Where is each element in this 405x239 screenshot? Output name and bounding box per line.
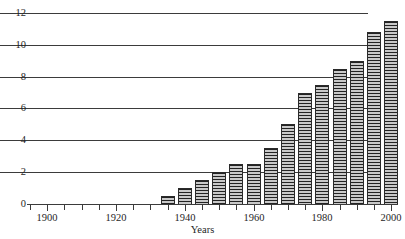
x-tick-major-1920	[116, 205, 117, 211]
bar-1985	[333, 69, 347, 204]
x-tick-major-2000	[391, 205, 392, 211]
x-tick-minor-1955	[236, 205, 237, 210]
bar-1965	[264, 148, 278, 204]
y-tick-mark-2	[27, 172, 30, 173]
x-tick-major-1960	[254, 205, 255, 211]
y-tick-label-0: 0	[0, 199, 26, 209]
x-tick-label-1940: 1940	[165, 212, 205, 223]
x-tick-minor-1905	[64, 205, 65, 210]
y-tick-label-10: 10	[0, 40, 26, 50]
x-tick-label-2000: 2000	[371, 212, 405, 223]
y-tick-mark-8	[27, 77, 30, 78]
gridline-4	[0, 140, 368, 141]
x-axis-line	[30, 204, 398, 205]
bar-1955	[229, 164, 243, 204]
gridline-10	[0, 45, 368, 46]
gridline-6	[0, 108, 368, 109]
bar-1975	[298, 93, 312, 204]
x-tick-minor-1930	[150, 205, 151, 210]
bar-1970	[281, 124, 295, 204]
x-tick-minor-1975	[305, 205, 306, 210]
y-tick-mark-10	[27, 45, 30, 46]
y-tick-mark-4	[27, 140, 30, 141]
x-tick-label-1980: 1980	[302, 212, 342, 223]
x-tick-minor-1990	[357, 205, 358, 210]
y-tick-label-2: 2	[0, 167, 26, 177]
x-tick-minor-1995	[374, 205, 375, 210]
x-tick-minor-1910	[82, 205, 83, 210]
x-tick-major-1980	[322, 205, 323, 211]
x-tick-major-1940	[185, 205, 186, 211]
x-tick-minor-1915	[99, 205, 100, 210]
x-tick-minor-1895	[30, 205, 31, 210]
x-tick-label-1960: 1960	[234, 212, 274, 223]
bar-1995	[367, 32, 381, 204]
x-tick-minor-1945	[202, 205, 203, 210]
bar-2000	[384, 21, 398, 204]
bar-1990	[350, 61, 364, 204]
x-axis-title: Years	[0, 224, 405, 235]
x-tick-minor-1935	[168, 205, 169, 210]
bar-1940	[178, 188, 192, 204]
x-tick-major-1900	[47, 205, 48, 211]
bar-1935	[161, 196, 175, 204]
bar-chart: 12 10 8 6 4 2 0 190019201940196019802000…	[0, 0, 405, 239]
x-tick-minor-1965	[271, 205, 272, 210]
y-tick-label-6: 6	[0, 103, 26, 113]
y-tick-label-12: 12	[0, 8, 26, 18]
gridline-2	[0, 172, 368, 173]
bar-1980	[315, 85, 329, 204]
gridline-12	[0, 13, 368, 14]
gridline-8	[0, 77, 368, 78]
x-tick-minor-1970	[288, 205, 289, 210]
y-tick-mark-12	[27, 13, 30, 14]
bar-1945	[195, 180, 209, 204]
x-tick-minor-1950	[219, 205, 220, 210]
bar-1960	[247, 164, 261, 204]
x-tick-label-1900: 1900	[27, 212, 67, 223]
x-tick-minor-1985	[340, 205, 341, 210]
x-tick-minor-1925	[133, 205, 134, 210]
bar-1950	[212, 172, 226, 204]
x-tick-label-1920: 1920	[96, 212, 136, 223]
y-tick-label-8: 8	[0, 72, 26, 82]
y-tick-label-4: 4	[0, 135, 26, 145]
y-tick-mark-6	[27, 108, 30, 109]
